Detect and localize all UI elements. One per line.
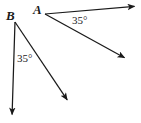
vertex-label-a: A [33,3,42,16]
angle-measure-a: 35° [72,15,87,26]
angle-measure-b: 35° [17,53,32,64]
ray-a-upper-right [45,6,135,14]
angle-diagram-figure: A B 35° 35° [0,0,141,123]
ray-b-down [12,22,15,115]
vertex-label-b: B [6,9,15,22]
